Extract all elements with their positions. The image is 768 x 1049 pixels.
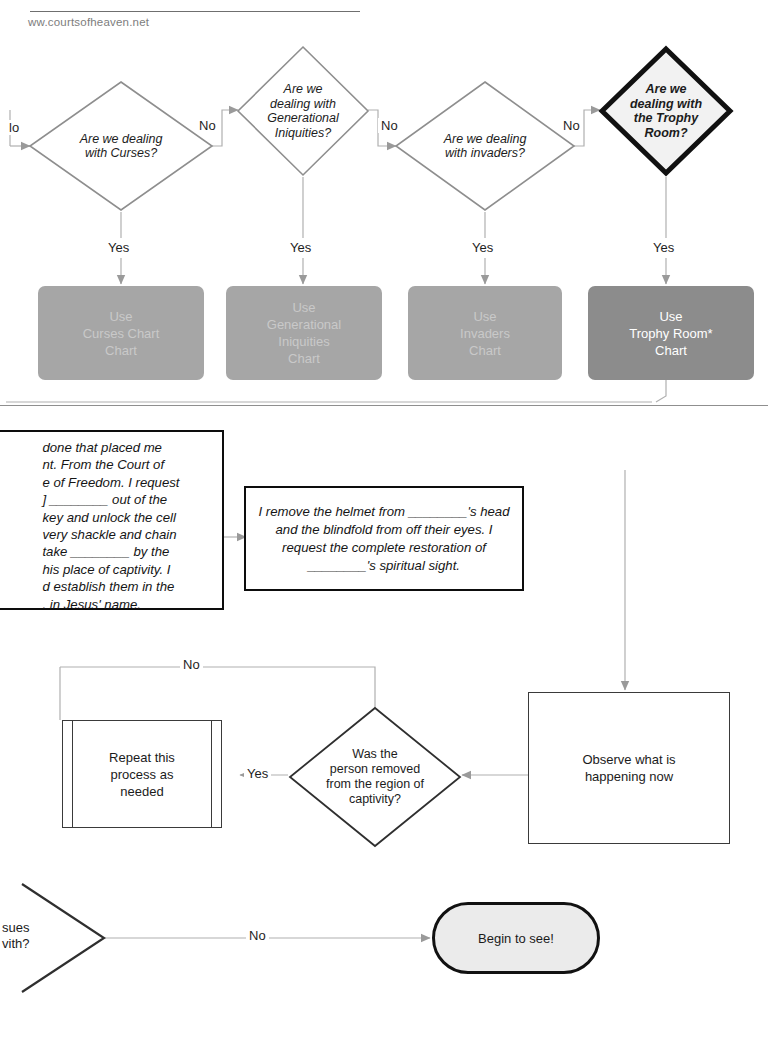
repeat-process-label: Repeat this process as needed	[109, 749, 175, 800]
decision-invaders[interactable]: Are we dealing with invaders?	[394, 80, 576, 212]
decision-generational-label: Are we dealing with Generational Iniquit…	[236, 82, 370, 140]
decision-generational-iniquities[interactable]: Are we dealing with Generational Iniquit…	[236, 45, 370, 177]
edge-label-generational-yes: Yes	[287, 240, 314, 255]
repeat-process-box[interactable]: Repeat this process as needed	[62, 720, 222, 828]
decision-trophy-room[interactable]: Are we dealing with the Trophy Room?	[598, 45, 734, 177]
prayer-box-freedom-clipped: done that placed me nt. From the Court o…	[0, 430, 224, 610]
edge-label-loop-yes: Yes	[244, 766, 271, 781]
site-url-text: ww.courtsofheaven.net	[28, 16, 149, 28]
decision-invaders-label: Are we dealing with invaders?	[394, 132, 576, 161]
decision-trophy-label: Are we dealing with the Trophy Room?	[598, 82, 734, 140]
edge-label-incoming-no: lo	[6, 120, 22, 135]
chart-box-invaders[interactable]: Use Invaders Chart	[408, 286, 562, 380]
edge-label-invaders-yes: Yes	[469, 240, 496, 255]
terminator-begin-to-see[interactable]: Begin to see!	[432, 902, 600, 974]
chart-box-curses[interactable]: Use Curses Chart Chart	[38, 286, 204, 380]
flowchart-page: ww.courtsofheaven.net	[0, 0, 768, 1049]
edge-label-loop-no: No	[180, 657, 203, 672]
decision-person-removed[interactable]: Was the person removed from the region o…	[288, 706, 462, 848]
decision-other-issues-label: sues vith?	[2, 920, 62, 952]
section-divider	[0, 405, 768, 406]
decision-curses[interactable]: Are we dealing with Curses?	[28, 80, 214, 212]
chart-box-generational[interactable]: Use Generational Iniquities Chart	[226, 286, 382, 380]
prayer-box-helmet-blindfold: I remove the helmet from ________'s head…	[244, 486, 524, 591]
decision-person-removed-label: Was the person removed from the region o…	[288, 747, 462, 807]
edge-label-trophy-yes: Yes	[650, 240, 677, 255]
edge-label-curses-yes: Yes	[105, 240, 132, 255]
chart-box-trophy-room[interactable]: Use Trophy Room* Chart	[588, 286, 754, 380]
edge-label-bottom-no: No	[246, 928, 269, 943]
header-cut-text	[30, 0, 730, 10]
header-divider-rule	[30, 11, 360, 12]
decision-other-issues-clipped[interactable]: sues vith?	[0, 878, 112, 998]
observe-box[interactable]: Observe what is happening now	[528, 692, 730, 844]
decision-curses-label: Are we dealing with Curses?	[28, 132, 214, 161]
